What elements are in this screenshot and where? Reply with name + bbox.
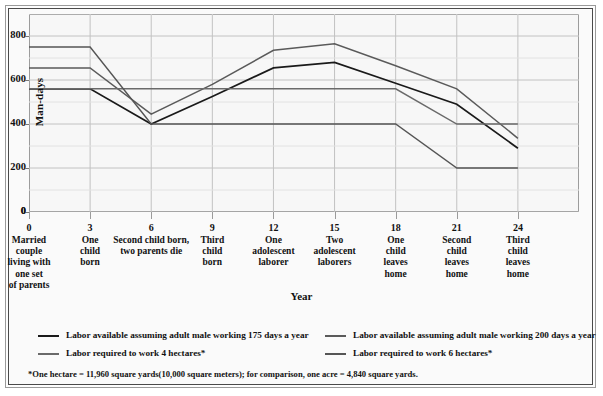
x-tick-mark-0 <box>29 212 30 219</box>
chart-page: Man-days 02004006008000 0Marriedcoupleli… <box>0 0 603 396</box>
y-axis-label: Man-days <box>33 57 45 147</box>
x-tick-group-year-24: 24Thirdchildleaveshome <box>481 222 555 280</box>
y-tick-label-800: 800 <box>0 29 26 40</box>
legend-available-200: Labor available assuming adult male work… <box>325 330 596 341</box>
x-tick-description-line: born <box>53 257 127 268</box>
x-tick-number: 24 <box>481 222 555 234</box>
legend-label: Labor available assuming adult male work… <box>66 330 309 341</box>
legend-label: Labor required to work 4 hectares* <box>66 348 205 359</box>
y-tick-label-600: 600 <box>0 73 26 84</box>
legend-available-175: Labor available assuming adult male work… <box>38 330 309 341</box>
x-tick-mark-12 <box>273 212 274 219</box>
x-tick-mark-9 <box>212 212 213 219</box>
legend-label: Labor required to work 6 hectares* <box>353 348 492 359</box>
x-tick-mark-3 <box>90 212 91 219</box>
origin-zero-label: 0 <box>0 205 26 216</box>
legend-line-swatch-icon <box>325 353 346 355</box>
x-tick-mark-6 <box>151 212 152 219</box>
x-tick-description-line: child <box>481 246 555 257</box>
legend-line-swatch-icon <box>38 353 59 355</box>
legend-required-4ha: Labor required to work 4 hectares* <box>38 348 205 359</box>
x-tick-description-line: leaves <box>481 257 555 268</box>
x-tick-description-line: home <box>481 269 555 280</box>
y-tick-mark-800 <box>25 36 29 37</box>
gridlines <box>29 14 579 212</box>
x-tick-mark-15 <box>335 212 336 219</box>
y-tick-label-200: 200 <box>0 161 26 172</box>
line-chart-canvas <box>29 14 579 212</box>
legend-line-swatch-icon <box>38 335 59 337</box>
footnote-text: *One hectare = 11,960 square yards(10,00… <box>28 369 418 379</box>
x-tick-description-line: Third <box>481 235 555 246</box>
legend-line-swatch-icon <box>325 335 346 337</box>
x-axis-label: Year <box>0 290 603 302</box>
legend-label: Labor available assuming adult male work… <box>353 330 596 341</box>
y-tick-mark-200 <box>25 168 29 169</box>
legend-required-6ha: Labor required to work 6 hectares* <box>325 348 492 359</box>
y-tick-mark-600 <box>25 80 29 81</box>
y-tick-label-400: 400 <box>0 117 26 128</box>
y-tick-mark-400 <box>25 124 29 125</box>
x-tick-mark-18 <box>396 212 397 219</box>
x-tick-mark-21 <box>457 212 458 219</box>
chart-legend: Labor available assuming adult male work… <box>30 330 575 364</box>
x-tick-mark-24 <box>518 212 519 219</box>
x-tick-description: Thirdchildleaveshome <box>481 235 555 280</box>
x-tick-description-line: one set <box>0 269 66 280</box>
